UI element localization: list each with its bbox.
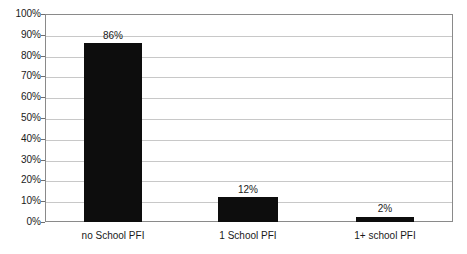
bar-group: 12% (218, 14, 278, 222)
bars-layer: 86% 12% 2% (45, 14, 453, 222)
y-tick-label: 80% (0, 51, 41, 61)
bar-value-label: 86% (84, 30, 142, 41)
bar-no-school-pfi[interactable] (84, 43, 142, 222)
y-axis: 100% 90% 80% 70% 60% 50% 40% 30% 20% 10%… (0, 0, 41, 254)
y-tick-label: 0% (0, 217, 41, 227)
bar-value-label: 12% (218, 184, 278, 195)
y-tick-label: 40% (0, 134, 41, 144)
y-tick-label: 60% (0, 92, 41, 102)
bar-chart: 100% 90% 80% 70% 60% 50% 40% 30% 20% 10%… (0, 0, 467, 254)
y-tickmark (41, 222, 45, 223)
y-tick-label: 100% (0, 9, 41, 19)
y-tick-label: 10% (0, 196, 41, 206)
y-tick-label: 50% (0, 113, 41, 123)
bar-value-label: 2% (356, 203, 414, 214)
y-tick-label: 30% (0, 155, 41, 165)
x-axis: no School PFI 1 School PFI 1+ school PFI (45, 230, 453, 248)
x-category-label: no School PFI (47, 230, 179, 242)
y-tick-label: 90% (0, 30, 41, 40)
bar-1-school-pfi[interactable] (218, 197, 278, 222)
bar-group: 2% (356, 14, 414, 222)
y-tick-label: 20% (0, 175, 41, 185)
y-tick-label: 70% (0, 71, 41, 81)
bar-1plus-school-pfi[interactable] (356, 217, 414, 222)
bar-group: 86% (84, 14, 142, 222)
x-category-label: 1+ school PFI (319, 230, 451, 242)
x-category-label: 1 School PFI (182, 230, 314, 242)
